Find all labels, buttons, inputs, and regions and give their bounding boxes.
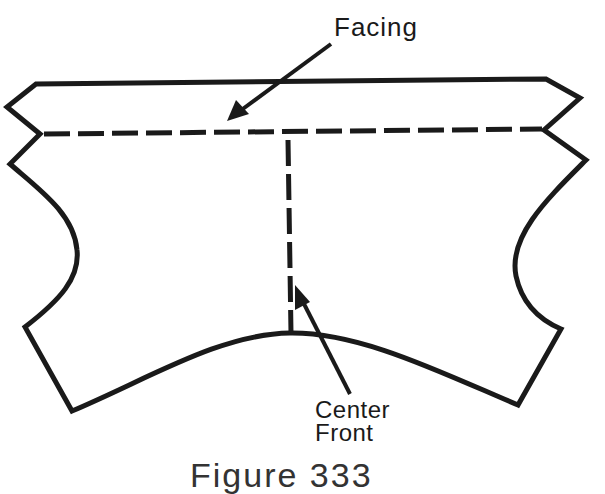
- facing-label: Facing: [334, 14, 418, 40]
- figure-caption: Figure 333: [190, 458, 373, 492]
- center-front-dashed-line: [288, 140, 291, 333]
- center-front-label-line2: Front: [315, 421, 374, 445]
- fold-dashed-line: [44, 129, 542, 134]
